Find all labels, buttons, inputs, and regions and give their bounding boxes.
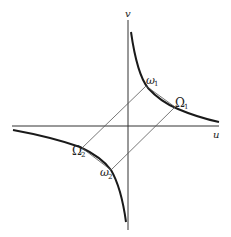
hyperbola-diagram: v u ω 1 Ω 1 Ω 2 ω 2 xyxy=(0,0,231,237)
svg-text:1: 1 xyxy=(184,103,188,111)
svg-text:1: 1 xyxy=(154,80,158,88)
v-axis-label: v xyxy=(125,8,131,19)
line-omega1-Omega2 xyxy=(82,86,146,148)
omega1-label: ω 1 xyxy=(146,74,158,88)
chord-omega1-Omega1 xyxy=(146,86,175,107)
u-axis-label: u xyxy=(213,129,219,140)
line-Omega1-omega2 xyxy=(111,107,175,170)
svg-text:2: 2 xyxy=(108,173,112,181)
svg-text:2: 2 xyxy=(81,151,85,159)
Omega1-label: Ω 1 xyxy=(175,96,188,111)
